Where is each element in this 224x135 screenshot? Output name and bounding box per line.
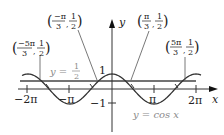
svg-text:(: ( [47, 13, 52, 29]
svg-text:2: 2 [39, 49, 44, 58]
svg-text:1: 1 [74, 62, 79, 71]
cosine-diagram: −2π −π π 2π 1 −1 x y y = cos x y = 1 2 (… [0, 0, 224, 135]
svg-text:1: 1 [157, 12, 162, 21]
svg-text:−π: −π [54, 12, 66, 21]
x-axis-arrow-icon [209, 86, 218, 92]
svg-text:3: 3 [173, 48, 178, 57]
svg-text:(: ( [137, 13, 142, 29]
point-label-neg-5pi-3: ( −5π 3 , 1 2 ) [12, 39, 50, 58]
tick-label-pi: π [149, 93, 156, 106]
svg-text:2: 2 [74, 72, 79, 81]
svg-text:(: ( [12, 40, 17, 56]
y-tick-label-1: 1 [99, 64, 106, 77]
svg-text:2: 2 [157, 22, 162, 31]
svg-text:2: 2 [188, 48, 193, 57]
point-label-5pi-3: ( 5π 3 , 1 2 ) [165, 38, 199, 57]
half-line-label: y = 1 2 [49, 62, 80, 81]
svg-text:3: 3 [56, 22, 61, 31]
svg-text:,: , [152, 20, 155, 29]
svg-text:3: 3 [144, 22, 149, 31]
svg-text:): ) [163, 13, 168, 29]
svg-text:1: 1 [39, 39, 44, 48]
svg-text:y =: y = [49, 66, 67, 77]
curve-label: y = cos x [132, 109, 179, 120]
svg-text:3: 3 [22, 49, 27, 58]
svg-text:π: π [144, 12, 149, 21]
svg-text:,: , [33, 47, 36, 56]
svg-text:1: 1 [188, 38, 193, 47]
svg-text:): ) [77, 13, 82, 29]
tick-label-neg-2pi: −2π [14, 93, 37, 106]
svg-text:1: 1 [71, 12, 76, 21]
svg-text:2: 2 [71, 22, 76, 31]
svg-text:): ) [194, 39, 199, 55]
tick-label-2pi: 2π [188, 94, 202, 107]
x-axis-label: x [212, 93, 219, 106]
y-axis-arrow-icon [109, 19, 115, 28]
y-axis-label: y [118, 16, 126, 29]
svg-text:): ) [45, 40, 50, 56]
svg-text:(: ( [165, 39, 170, 55]
svg-text:,: , [183, 46, 186, 55]
point-label-pi-3: ( π 3 , 1 2 ) [137, 12, 168, 31]
svg-text:,: , [66, 20, 69, 29]
point-label-neg-pi-3: ( −π 3 , 1 2 ) [47, 12, 82, 31]
svg-text:5π: 5π [171, 38, 181, 47]
tick-label-neg-pi: −π [58, 93, 74, 106]
y-tick-label-neg1: −1 [90, 97, 106, 110]
